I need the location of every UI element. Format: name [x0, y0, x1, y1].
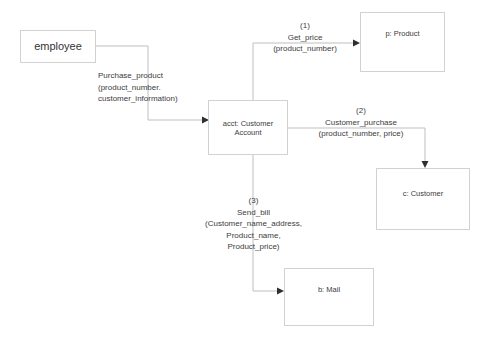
arrowhead-send-bill: [277, 288, 284, 295]
object-label-account: acct: Customer Account: [209, 118, 287, 137]
object-box-employee[interactable]: employee: [20, 30, 96, 63]
message-label-customer-purchase: (2) Customer_purchase (product_number, p…: [292, 105, 430, 140]
object-box-mail[interactable]: b: Mail: [284, 268, 374, 326]
message-label-get-price: (1) Get_price (product_number): [250, 20, 360, 55]
arrowhead-customer-purchase: [422, 161, 429, 168]
object-box-customer[interactable]: c: Customer: [376, 168, 470, 230]
object-label-product: p: Product: [361, 29, 444, 38]
object-box-account[interactable]: acct: Customer Account: [208, 100, 288, 155]
message-label-purchase-product: Purchase_product (product_number. custom…: [98, 70, 208, 105]
object-box-product[interactable]: p: Product: [360, 12, 445, 72]
diagram-canvas: employee acct: Customer Account p: Produ…: [0, 0, 483, 341]
object-label-mail: b: Mail: [285, 285, 373, 294]
object-label-customer: c: Customer: [377, 189, 469, 198]
object-label-employee: employee: [21, 40, 95, 54]
message-label-send-bill: (3) Send_bill (Customer_name_address, Pr…: [181, 195, 326, 253]
